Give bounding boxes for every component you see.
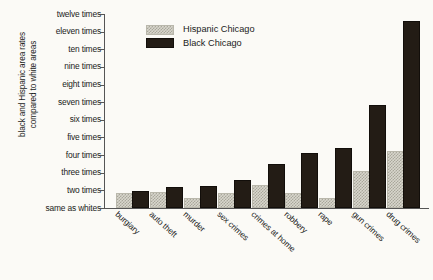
y-tick-label: eleven times [56, 27, 101, 36]
bar-hispanic [353, 171, 370, 208]
y-tick-label: nine times [64, 62, 101, 71]
bar-hispanic [116, 193, 133, 208]
bar-black [403, 21, 420, 208]
bar-hispanic [150, 192, 167, 208]
bar-group [252, 14, 284, 208]
y-tick-mark [100, 49, 104, 50]
bar-black [369, 105, 386, 208]
y-tick-mark [100, 190, 104, 191]
y-tick-label: three times [61, 168, 101, 177]
x-tick-label: drug crimes [384, 209, 422, 245]
y-tick-mark [100, 173, 104, 174]
y-tick-mark [100, 32, 104, 33]
legend-label: Hispanic Chicago [183, 23, 255, 37]
x-axis-tick-labels: burgiaryauto theftmurdersex crimescrimes… [104, 209, 433, 280]
x-tick-label: auto theft [147, 209, 179, 239]
y-tick-label: six times [70, 115, 101, 124]
y-tick-label: four times [66, 151, 101, 160]
bar-hispanic [285, 193, 302, 208]
y-tick-label: twelve times [57, 10, 101, 19]
bar-black [132, 191, 149, 208]
y-tick-label: ten times [68, 45, 101, 54]
y-tick-mark [100, 102, 104, 103]
x-tick-label: sex crimes [215, 209, 251, 243]
bar-hispanic [319, 198, 336, 208]
y-tick-mark [100, 137, 104, 138]
y-tick-mark [100, 120, 104, 121]
y-axis-tick-labels: same as whitestwo timesthree timesfour t… [0, 0, 101, 280]
y-tick-label: two times [67, 186, 101, 195]
bar-black [234, 180, 251, 208]
y-tick-mark [100, 85, 104, 86]
bar-group [285, 14, 317, 208]
bar-group [116, 14, 148, 208]
bar-group [319, 14, 351, 208]
bar-group [387, 14, 419, 208]
y-tick-label: five times [67, 133, 101, 142]
bar-black [335, 148, 352, 208]
legend-entry: Black Chicago [146, 37, 255, 51]
bar-black [268, 164, 285, 208]
y-tick-mark [100, 14, 104, 15]
x-tick-label: gun crimes [350, 209, 386, 243]
x-tick-label: murder [181, 209, 207, 234]
x-tick-label: rape [317, 209, 336, 227]
bar-hispanic [218, 193, 235, 208]
y-tick-mark [100, 67, 104, 68]
bar-chart: black and Hispanic area rates compared t… [0, 0, 433, 280]
bar-group [353, 14, 385, 208]
bar-black [200, 186, 217, 208]
bar-black [301, 153, 318, 208]
bar-black [166, 187, 183, 208]
legend-swatch-black [146, 38, 174, 48]
bar-hispanic [387, 151, 404, 208]
legend-label: Black Chicago [183, 37, 242, 51]
bar-hispanic [184, 198, 201, 208]
bar-hispanic [252, 185, 269, 208]
x-tick-label: burgiary [113, 209, 142, 236]
chart-legend: Hispanic ChicagoBlack Chicago [146, 23, 255, 50]
y-tick-label: same as whites [45, 204, 101, 213]
legend-entry: Hispanic Chicago [146, 23, 255, 37]
y-tick-mark [100, 155, 104, 156]
x-tick-label: robbery [283, 209, 310, 235]
y-tick-label: seven times [58, 98, 101, 107]
y-tick-label: eight times [62, 80, 101, 89]
legend-swatch-hispanic [146, 25, 174, 35]
